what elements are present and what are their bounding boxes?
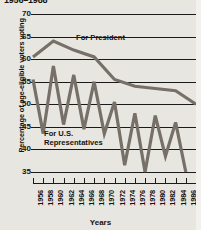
x-tick-mark <box>33 178 34 184</box>
x-tick-mark <box>145 178 146 184</box>
y-tick-mark <box>31 82 34 83</box>
x-tick-label: 1974 <box>128 190 137 206</box>
x-tick-mark <box>125 178 126 184</box>
y-tick-label: 55 <box>22 78 31 86</box>
y-tick-label: 60 <box>22 55 31 63</box>
gridline <box>33 127 196 128</box>
y-tick-label: 35 <box>22 168 31 176</box>
x-tick-mark <box>104 178 105 184</box>
x-tick-mark <box>64 178 65 184</box>
page-edge <box>196 0 201 230</box>
x-tick-label: 1958 <box>46 190 55 206</box>
x-tick-mark <box>155 178 156 184</box>
y-tick-mark <box>31 59 34 60</box>
gridline <box>33 104 196 105</box>
gridline <box>33 172 196 173</box>
x-tick-mark <box>43 178 44 184</box>
x-tick-label: 1964 <box>77 190 86 206</box>
x-tick-mark <box>94 178 95 184</box>
x-tick-label: 1956 <box>36 190 45 206</box>
x-tick-label: 1976 <box>138 190 147 206</box>
x-tick-mark <box>165 178 166 184</box>
x-tick-mark <box>74 178 75 184</box>
annotation-reps-line1: For U.S. <box>44 129 73 138</box>
y-tick-label: 45 <box>22 123 31 131</box>
x-tick-label: 1966 <box>87 190 96 206</box>
x-tick-mark <box>84 178 85 184</box>
x-tick-label: 1960 <box>56 190 65 206</box>
y-tick-label: 40 <box>22 145 31 153</box>
x-tick-label: 1982 <box>168 190 177 206</box>
y-tick-mark <box>31 37 34 38</box>
gridline <box>33 59 196 60</box>
x-tick-label: 1970 <box>107 190 116 206</box>
y-tick-mark <box>31 14 34 15</box>
x-tick-label: 1968 <box>97 190 106 206</box>
y-tick-label: 50 <box>22 100 31 108</box>
annotation-reps-line2: Representatives <box>44 138 103 147</box>
gridline <box>33 14 196 15</box>
data-series-line <box>33 41 196 104</box>
x-tick-mark <box>176 178 177 184</box>
chart-container: 1956–1988 Percentage of age-eligible vot… <box>0 0 201 230</box>
x-tick-label: 1972 <box>118 190 127 206</box>
x-tick-label: 1980 <box>158 190 167 206</box>
y-tick-label: 70 <box>22 10 31 18</box>
annotation-for-president: For President <box>76 34 125 43</box>
x-tick-label: 1984 <box>179 190 188 206</box>
x-tick-label: 1978 <box>148 190 157 206</box>
x-tick-mark <box>135 178 136 184</box>
y-tick-label: 65 <box>22 33 31 41</box>
y-tick-mark <box>31 104 34 105</box>
y-tick-mark <box>31 149 34 150</box>
x-axis-label: Years <box>0 218 201 227</box>
y-tick-mark <box>31 127 34 128</box>
y-tick-mark <box>31 172 34 173</box>
gridline <box>33 149 196 150</box>
y-tick-labels: 7065605550454035 <box>13 0 31 230</box>
x-tick-label: 1962 <box>67 190 76 206</box>
x-tick-mark <box>115 178 116 184</box>
x-tick-mark <box>53 178 54 184</box>
gridline <box>33 82 196 83</box>
x-tick-mark <box>186 178 187 184</box>
annotation-for-us-representatives: For U.S.Representatives <box>44 130 103 148</box>
